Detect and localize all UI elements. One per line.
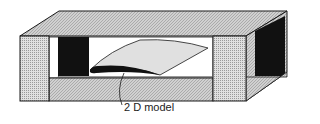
left-pillar <box>20 36 49 101</box>
tunnel-top-face <box>20 11 287 36</box>
model-label: 2 D model <box>124 101 174 113</box>
inner-back-wall <box>58 37 89 77</box>
front-bottom-slab <box>49 78 213 101</box>
right-pillar <box>213 36 246 101</box>
